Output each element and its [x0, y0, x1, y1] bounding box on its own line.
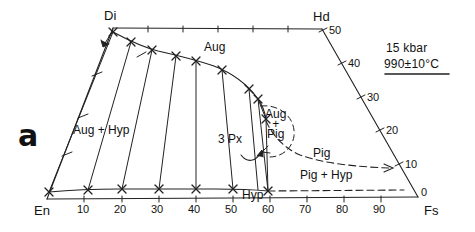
tie-line [159, 56, 176, 189]
tie-line [222, 70, 233, 189]
field-label-augite-pigeonite: Aug + Pig [265, 109, 286, 139]
augite-pigeonite-line-3: Pig [265, 129, 286, 139]
field-label-pigeonite: Pig [313, 146, 330, 160]
tie-line [122, 50, 152, 189]
right-tick-label-40: 40 [348, 57, 360, 69]
pressure-annotation: 15 kbar [386, 41, 427, 55]
bottom-tick-label-80: 80 [336, 203, 348, 215]
vertex-label-hd: Hd [313, 9, 330, 24]
field-label-hypersthene: Hyp [242, 188, 263, 202]
tie-line [49, 32, 113, 192]
right-tick-label-0: 0 [421, 186, 427, 198]
temperature-annotation: 990±10°C [384, 57, 439, 71]
bottom-tick-label-70: 70 [299, 203, 311, 215]
vertex-label-fs: Fs [424, 203, 438, 218]
augite-solvus-limb [113, 32, 266, 119]
right-tick-label-20: 20 [386, 124, 398, 136]
tie-line [249, 89, 258, 190]
field-label-three-pyroxene: 3 Px [218, 132, 242, 146]
right-tick-label-50: 50 [329, 24, 341, 36]
field-label-augite-hypersthene: Aug + Hyp [73, 123, 129, 137]
bottom-tick-label-60: 60 [262, 203, 274, 215]
panel-label: a [18, 118, 38, 153]
field-label-augite: Aug [204, 40, 225, 54]
three-px-arrowhead [257, 150, 263, 157]
bottom-tick-label-20: 20 [114, 203, 126, 215]
bottom-tick-label-10: 10 [77, 203, 89, 215]
right-tick-label-30: 30 [367, 91, 379, 103]
tie-line [88, 42, 131, 190]
bottom-tick-label-40: 40 [188, 203, 200, 215]
bottom-tick-label-50: 50 [225, 203, 237, 215]
bottom-tick-label-30: 30 [151, 203, 163, 215]
right-tick-label-10: 10 [405, 158, 417, 170]
quadrilateral-frame [47, 28, 418, 199]
bottom-tick-label-90: 90 [373, 203, 385, 215]
tie-line-ticks [62, 52, 146, 156]
vertex-label-en: En [34, 203, 50, 218]
pigeonite-hypersthene-boundary-dashed [268, 190, 404, 191]
vertex-label-di: Di [104, 8, 116, 23]
field-label-pigeonite-hypersthene: Pig + Hyp [300, 168, 352, 182]
phase-diagram-figure: Di Hd En Fs 10 20 30 40 50 60 70 80 90 5… [0, 0, 475, 232]
data-markers [45, 28, 272, 196]
diagram-canvas [0, 0, 475, 232]
